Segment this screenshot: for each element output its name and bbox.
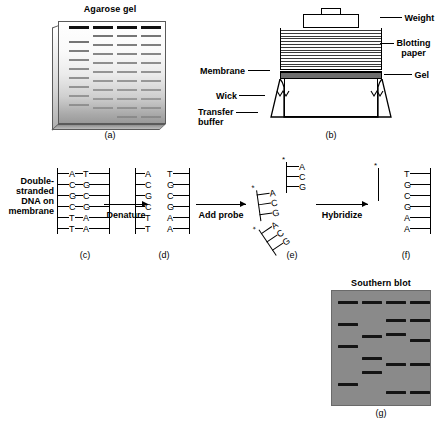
dna-base: G: [167, 203, 174, 212]
wick-left-zigzag: [276, 89, 290, 103]
membrane-label: Membrane: [200, 66, 245, 76]
agarose-gel-illustration: [52, 21, 166, 126]
dna-base: A: [167, 214, 173, 223]
dna-ladder-d: ATCGGCCGTATA: [135, 166, 193, 242]
dna-rung: [89, 228, 109, 229]
blotting-paper-leader-line: [380, 43, 394, 44]
transfer-buffer-label-group: Transfer buffer: [198, 107, 258, 127]
blotting-paper-stack: [280, 28, 382, 69]
southern-blot-band: [386, 391, 406, 394]
blotting-paper-line: [281, 52, 381, 53]
gel-band: [117, 80, 137, 82]
gel-lane: [93, 22, 113, 125]
dna-base-pair-bond: [75, 206, 83, 207]
weight-label-group: Weight: [380, 12, 434, 23]
radioactive-label-icon: *: [252, 226, 259, 234]
southern-blot-band: [338, 345, 358, 348]
panel-e-label: (e): [256, 250, 328, 260]
dna-rung: [135, 195, 145, 196]
gel-label: Gel: [415, 70, 430, 80]
gel-band: [69, 104, 89, 106]
dna-base: C: [167, 192, 174, 201]
radioactive-label-icon: *: [282, 156, 285, 164]
dna-rung: [173, 184, 189, 185]
blotting-paper-label-line2: paper: [397, 48, 431, 58]
dna-rung: [286, 166, 299, 167]
blotting-paper-label-line1: Blotting: [397, 38, 431, 48]
dna-base: G: [167, 181, 174, 190]
dna-rung: [410, 206, 430, 207]
southern-blot-band: [410, 391, 430, 394]
dna-rung: [173, 217, 189, 218]
dna-base: T: [404, 170, 410, 179]
southern-blot-image: [331, 290, 431, 406]
gel-band: [93, 107, 113, 109]
dna-rung: [135, 206, 145, 207]
caption-line-4: membrane: [2, 206, 54, 216]
gel-band: [69, 86, 89, 88]
dna-rung: [410, 173, 430, 174]
dna-base: A: [299, 163, 305, 172]
dna-base-pair-bond: [75, 173, 83, 174]
dna-rung: [258, 203, 271, 206]
agarose-gel-title: Agarose gel: [40, 4, 180, 14]
panel-a-label: (a): [40, 130, 180, 140]
dna-base: C: [145, 181, 152, 190]
southern-blot-band: [410, 301, 430, 304]
dna-base: A: [83, 225, 89, 234]
membrane-label-group: Membrane: [200, 65, 270, 76]
blotting-paper-line: [281, 58, 381, 59]
transfer-buffer-label-line1: Transfer: [198, 107, 234, 117]
gel-band: [141, 62, 161, 64]
gel-band: [141, 35, 161, 37]
dna-base: C: [299, 173, 306, 182]
dna-base: G: [83, 181, 90, 190]
hybridize-arrow-label: Hybridize: [316, 210, 368, 220]
gel-lane: [117, 22, 137, 125]
dna-rung: [57, 195, 69, 196]
gel-band: [93, 26, 113, 29]
blotting-paper-line: [281, 61, 381, 62]
dna-base: T: [83, 170, 89, 179]
blotting-paper-line: [281, 36, 381, 37]
wick-label-group: Wick: [216, 90, 265, 101]
gel-band: [69, 26, 89, 29]
gel-band: [117, 53, 137, 55]
caption-line-2: stranded: [2, 186, 54, 196]
southern-blot-lane: [386, 291, 406, 405]
gel-band: [93, 80, 113, 82]
panel-double-stranded-dna: Double- stranded DNA on membrane ATCGGCC…: [2, 162, 118, 272]
gel-band: [141, 53, 161, 55]
blotting-paper-line: [281, 41, 381, 42]
gel-band: [93, 98, 113, 100]
panel-hybridized-dna: TGCGAA* (f): [378, 162, 436, 272]
gel-band: [117, 89, 137, 91]
dna-base: C: [145, 203, 152, 212]
panel-g-label: (g): [325, 408, 437, 418]
radioactive-label-icon: *: [251, 185, 255, 193]
weight-block: [303, 8, 359, 28]
blotting-paper-line: [281, 64, 381, 65]
blotting-paper-line: [281, 38, 381, 39]
blotting-paper-line: [281, 66, 381, 67]
southern-blot-band: [362, 357, 382, 360]
gel-band: [69, 95, 89, 97]
blotting-paper-line: [281, 30, 381, 31]
dna-base: G: [404, 203, 411, 212]
dna-rung: [135, 217, 145, 218]
dna-rung: [410, 217, 430, 218]
dna-rung: [57, 217, 69, 218]
panel-denatured-dna: ATCGGCCGTATA (d): [135, 162, 195, 272]
gel-band: [93, 71, 113, 73]
probe-fragment: *ACG: [286, 160, 320, 194]
transfer-buffer-label: Transfer buffer: [198, 107, 234, 127]
transfer-buffer-leader-line: [236, 112, 258, 113]
gel-band: [117, 98, 137, 100]
southern-blot-band: [410, 339, 430, 342]
gel-layer: [280, 72, 382, 79]
dna-backbone-left: [378, 168, 379, 201]
gel-band: [69, 50, 89, 52]
dna-rung: [286, 176, 299, 177]
dna-rung: [410, 195, 430, 196]
gel-band: [93, 53, 113, 55]
